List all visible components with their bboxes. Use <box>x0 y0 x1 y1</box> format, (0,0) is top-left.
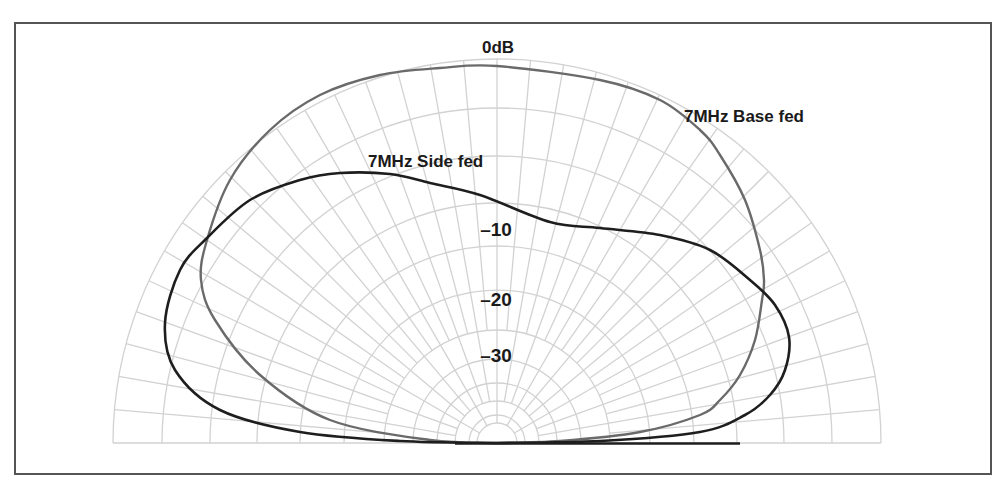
label-minus-10: –10 <box>480 219 512 240</box>
polar-chart: 0dB 7MHz Base fed 7MHz Side fed –10 –20 … <box>0 0 1007 485</box>
label-side-fed: 7MHz Side fed <box>368 152 483 171</box>
label-minus-20: –20 <box>480 289 512 310</box>
label-minus-30: –30 <box>480 345 512 366</box>
label-base-fed: 7MHz Base fed <box>684 107 804 126</box>
label-0db: 0dB <box>482 38 514 57</box>
